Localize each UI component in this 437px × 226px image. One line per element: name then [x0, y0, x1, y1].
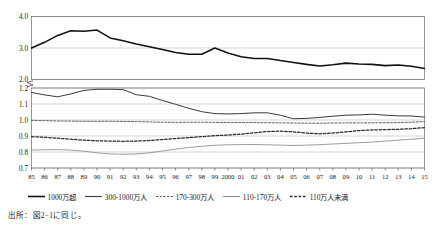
legend-swatch-dashed-fine	[156, 193, 173, 200]
x-tick-label: 11	[369, 173, 375, 180]
y-tick-label: 4.0	[19, 13, 28, 21]
legend-swatch-solid	[85, 193, 102, 200]
x-tick-label: 10	[356, 173, 363, 180]
x-tick-label: 97	[185, 173, 192, 180]
x-tick-label: 12	[382, 173, 389, 180]
y-tick-label: 0.9	[19, 133, 28, 141]
x-tick-label: 07	[316, 173, 323, 180]
x-tick-label: 95	[159, 173, 166, 180]
legend-label-under-110man: 110万人未満	[310, 191, 349, 202]
legend-label-300-1000man: 300-1000万人	[105, 191, 147, 202]
x-tick-label: 09	[343, 173, 350, 180]
x-tick-label: 06	[303, 173, 310, 180]
x-tick-label: 14	[408, 173, 415, 180]
y-tick-label: 0.8	[19, 149, 28, 157]
x-tick-label: 87	[54, 173, 61, 180]
x-tick-label: 05	[290, 173, 297, 180]
x-tick-label: 93	[133, 173, 140, 180]
y-tick-label: 3.0	[19, 45, 28, 53]
legend-swatch-solid-thick	[28, 193, 45, 200]
y-tick-label: 1.2	[19, 85, 28, 93]
series-line-2	[32, 120, 425, 123]
x-tick-label: 04	[277, 173, 284, 180]
legend-item-300-1000man: 300-1000万人	[85, 191, 147, 202]
x-tick-label: 94	[146, 173, 153, 180]
chart-container: 2.03.04.00.70.80.91.01.11.28586878889909…	[0, 0, 437, 226]
x-tick-label: 96	[172, 173, 179, 180]
x-tick-label: 02	[251, 173, 258, 180]
legend-label-110-170man: 110-170万人	[243, 191, 281, 202]
chart-legend: 1000万超 300-1000万人 170-300万人 110-170万人 11…	[28, 190, 428, 203]
x-tick-label: 85	[28, 173, 35, 180]
x-tick-label: 15	[421, 173, 428, 180]
x-tick-label: 91	[107, 173, 114, 180]
legend-item-110-170man: 110-170万人	[223, 191, 281, 202]
x-tick-label: 99	[212, 173, 219, 180]
y-tick-label: 1.0	[19, 117, 28, 125]
series-line-0	[32, 30, 425, 68]
source-note: 出所：図2−1に同じ。	[8, 209, 86, 220]
x-tick-label: 90	[94, 173, 101, 180]
x-tick-label: 92	[120, 173, 127, 180]
x-tick-label: 2000	[221, 173, 235, 180]
x-tick-label: 01	[238, 173, 245, 180]
x-tick-label: 13	[395, 173, 402, 180]
series-line-4	[32, 128, 425, 142]
legend-item-1000man-over: 1000万超	[28, 191, 76, 202]
legend-item-170-300man: 170-300万人	[156, 191, 214, 202]
x-tick-label: 89	[81, 173, 88, 180]
x-tick-label: 03	[264, 173, 271, 180]
legend-label-170-300man: 170-300万人	[176, 191, 215, 202]
legend-swatch-solid-light	[223, 193, 240, 200]
legend-swatch-dashed-bold	[290, 193, 307, 200]
x-tick-label: 86	[41, 173, 48, 180]
x-tick-label: 88	[68, 173, 75, 180]
x-tick-label: 08	[330, 173, 337, 180]
legend-label-1000man-over: 1000万超	[48, 191, 77, 202]
x-tick-label: 98	[199, 173, 206, 180]
y-tick-label: 1.1	[19, 101, 28, 109]
legend-item-under-110man: 110万人未満	[290, 191, 348, 202]
y-tick-label: 0.7	[19, 165, 28, 173]
